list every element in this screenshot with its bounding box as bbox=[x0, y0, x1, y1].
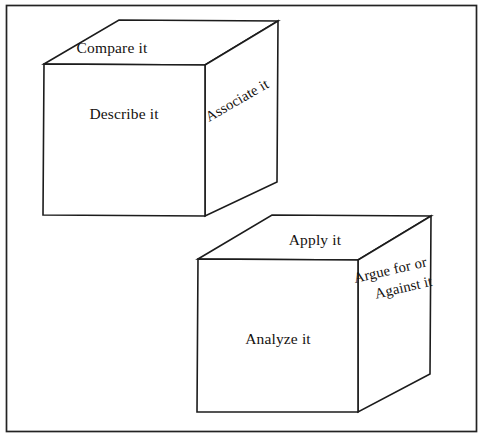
cube2-front-label: Analyze it bbox=[245, 330, 311, 347]
cube1-top-label: Compare it bbox=[77, 39, 148, 56]
cube1-front-label: Describe it bbox=[89, 105, 159, 122]
cube2-top-label: Apply it bbox=[289, 231, 342, 248]
cube1-front-face bbox=[43, 64, 205, 216]
cubing-diagram-canvas: Compare it Describe it Associate it Appl… bbox=[0, 0, 486, 443]
diagram-svg: Compare it Describe it Associate it Appl… bbox=[0, 0, 486, 443]
cube-lower-right: Apply it Analyze it Argue for or Against… bbox=[197, 215, 434, 412]
cube-upper-left: Compare it Describe it Associate it bbox=[43, 20, 278, 216]
